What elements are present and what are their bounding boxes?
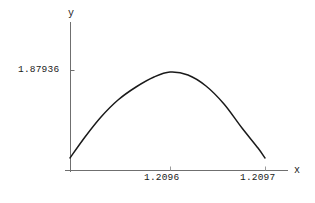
x-axis-tick-label-1: 1.2096 (144, 172, 179, 183)
y-axis-title: y (68, 8, 74, 19)
data-curve (70, 72, 265, 158)
plot-figure: 1.87936 1.2096 1.2097 y x (0, 0, 315, 203)
x-axis-tick-label-2: 1.2097 (240, 172, 275, 183)
y-axis-tick-label: 1.87936 (18, 64, 59, 75)
x-axis-title: x (294, 165, 300, 176)
